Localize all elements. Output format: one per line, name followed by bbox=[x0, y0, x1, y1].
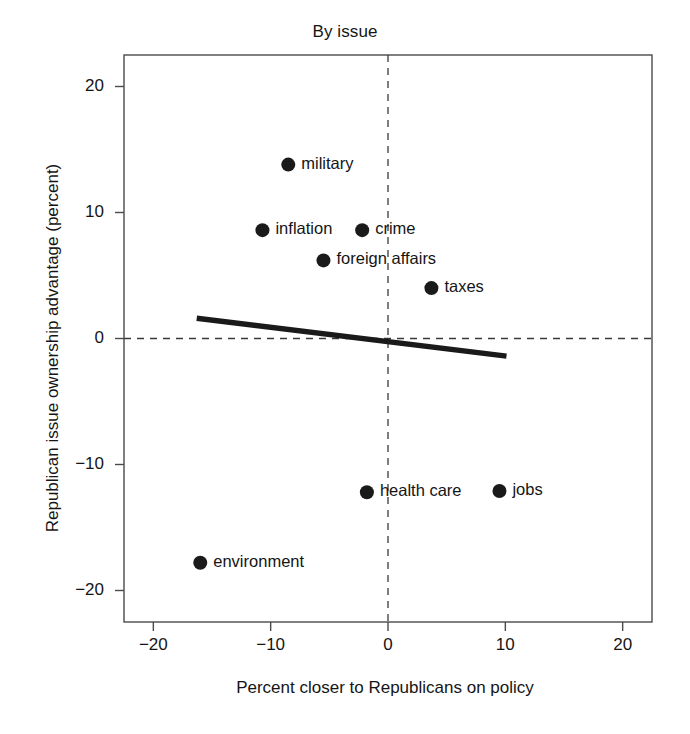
x-tick-label: 20 bbox=[593, 635, 653, 655]
point-label: foreign affairs bbox=[336, 249, 436, 268]
y-axis-title: Republican issue ownership advantage (pe… bbox=[43, 63, 63, 633]
point-label: inflation bbox=[275, 219, 332, 238]
x-tick-label: 0 bbox=[358, 635, 418, 655]
reference-lines bbox=[124, 55, 652, 622]
point-label: jobs bbox=[512, 480, 542, 499]
point-label: crime bbox=[375, 219, 415, 238]
tick-marks bbox=[115, 87, 623, 632]
chart-figure: By issue −20−1001020−20−1001020 military… bbox=[0, 0, 690, 734]
x-tick-label: −20 bbox=[123, 635, 183, 655]
x-tick-label: 10 bbox=[475, 635, 535, 655]
data-point-markers bbox=[193, 158, 506, 570]
regression-line bbox=[197, 318, 507, 356]
point-label: taxes bbox=[444, 277, 483, 296]
point-label: environment bbox=[213, 552, 304, 571]
point-label: health care bbox=[380, 481, 462, 500]
x-axis-title: Percent closer to Republicans on policy bbox=[100, 678, 670, 698]
x-tick-label: −10 bbox=[241, 635, 301, 655]
point-label: military bbox=[301, 154, 353, 173]
scatter-plot-canvas bbox=[0, 0, 690, 734]
